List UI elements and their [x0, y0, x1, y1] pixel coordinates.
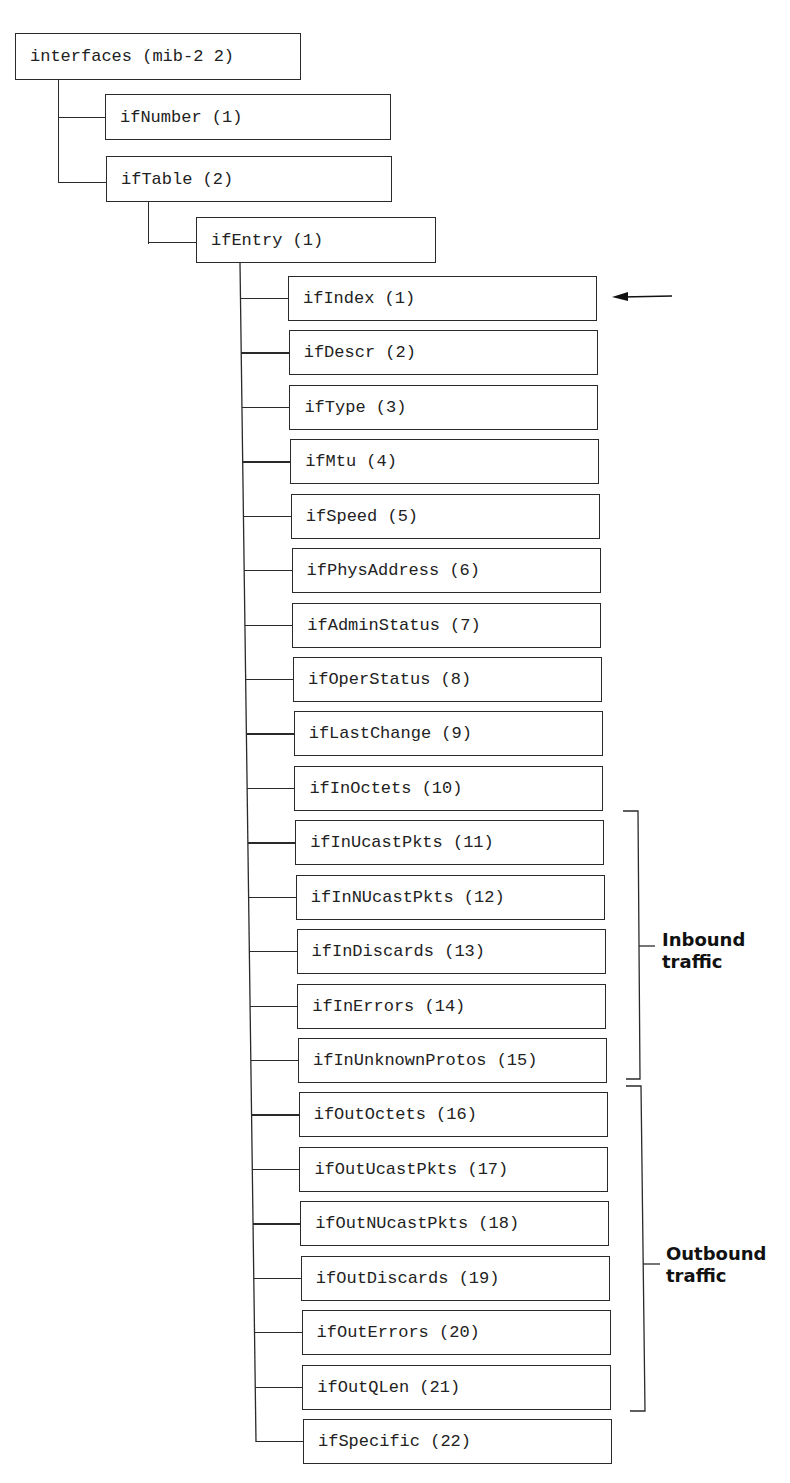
outbound-label-line1: Outbound — [666, 1243, 767, 1265]
outbound-label-line2: traffic — [666, 1265, 767, 1287]
inbound-label-line2: traffic — [662, 951, 745, 973]
outbound-traffic-label: Outbound traffic — [666, 1243, 767, 1287]
inbound-traffic-label: Inbound traffic — [662, 929, 745, 973]
inbound-label-line1: Inbound — [662, 929, 745, 951]
